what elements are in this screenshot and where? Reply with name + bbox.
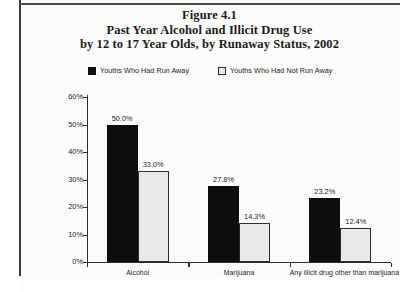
legend-label-runaway: Youths Who Had Run Away	[100, 66, 189, 75]
y-axis-tick-label: 50%	[68, 120, 83, 129]
y-axis-tick-label: 60%	[68, 92, 83, 101]
y-axis-tick-mark	[83, 235, 87, 236]
y-axis-tick-mark	[83, 180, 87, 181]
figure-title-line-2: by 12 to 17 Year Olds, by Runaway Status…	[19, 37, 400, 52]
y-axis-tick-label: 40%	[68, 147, 83, 156]
figure-page: Figure 4.1 Past Year Alcohol and Illicit…	[0, 0, 400, 292]
bar-value-label: 33.0%	[132, 160, 175, 169]
y-axis-line	[87, 95, 88, 263]
x-axis-tick-mark	[391, 263, 392, 267]
legend-swatch-light-icon	[218, 67, 226, 75]
y-axis-tick-label: 10%	[68, 230, 83, 239]
figure-title-line-1: Past Year Alcohol and Illicit Drug Use	[19, 23, 400, 38]
legend-item-runaway: Youths Who Had Run Away	[88, 66, 189, 75]
y-axis-tick-mark	[83, 125, 87, 126]
chart-legend: Youths Who Had Run Away Youths Who Had N…	[19, 66, 400, 80]
x-axis-tick-mark	[188, 263, 189, 267]
page-edge-bottom	[19, 276, 400, 292]
x-axis-tick-mark	[290, 263, 291, 267]
bar-value-label: 50.0%	[101, 114, 144, 123]
bar-not-runaway	[239, 223, 270, 262]
page-edge-top	[19, 3, 400, 5]
bar-value-label: 23.2%	[303, 187, 346, 196]
y-axis-tick-mark	[83, 207, 87, 208]
bar-not-runaway	[340, 228, 371, 262]
y-axis-tick-label: 0%	[72, 257, 83, 266]
bar-not-runaway	[138, 171, 169, 262]
bar-value-label: 27.8%	[202, 175, 245, 184]
y-axis-tick-label: 30%	[68, 175, 83, 184]
bar-value-label: 14.3%	[233, 212, 276, 221]
x-axis-tick-mark	[87, 263, 88, 267]
figure-title-block: Figure 4.1 Past Year Alcohol and Illicit…	[19, 8, 400, 52]
bar-runaway	[107, 125, 138, 263]
y-axis-tick-mark	[83, 152, 87, 153]
figure-number: Figure 4.1	[19, 8, 400, 23]
y-axis-tick-label: 20%	[68, 202, 83, 211]
bar-value-label: 12.4%	[334, 217, 377, 226]
bar-runaway	[309, 198, 340, 262]
bar-runaway	[208, 186, 239, 262]
x-axis-category-label: Marijuana	[188, 269, 289, 276]
x-axis-category-label: Any illicit drug other than marijuana	[290, 269, 391, 276]
plot-area: 60%50%40%30%20%10%0% 50.0%33.0%27.8%14.3…	[19, 88, 400, 278]
legend-swatch-dark-icon	[88, 67, 96, 75]
page-margin-left	[0, 0, 19, 292]
y-axis-tick-mark	[83, 97, 87, 98]
legend-label-not-runaway: Youths Who Had Not Run Away	[230, 66, 332, 75]
x-axis-line	[87, 262, 391, 263]
legend-item-not-runaway: Youths Who Had Not Run Away	[218, 66, 332, 75]
x-axis-category-label: Alcohol	[87, 269, 188, 276]
